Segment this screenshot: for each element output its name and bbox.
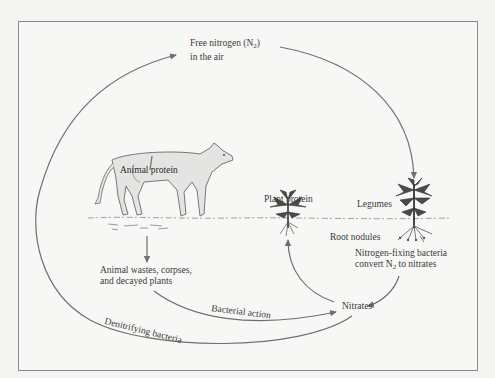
ground-debris xyxy=(108,224,168,230)
label-root-nodules: Root nodules xyxy=(330,232,380,243)
label-legumes: Legumes xyxy=(357,199,392,210)
legume-illustration xyxy=(396,178,432,242)
label-nitrogen-fixing: Nitrogen-fixing bacteria convert N2 to n… xyxy=(355,248,447,272)
arrow-nitrates-to-plant xyxy=(288,240,334,302)
label-free-nitrogen: Free nitrogen (N2) in the air xyxy=(190,38,260,62)
ground-line xyxy=(88,217,450,218)
label-plant-protein: Plant protein xyxy=(264,194,313,205)
arrow-nitrogen-to-legumes xyxy=(280,47,414,178)
label-nitrates: Nitrates xyxy=(342,301,372,312)
label-animal-protein: Animal protein xyxy=(120,165,178,176)
nitrogen-cycle-diagram: Free nitrogen (N2) in the air Animal pro… xyxy=(0,0,495,378)
arrow-legumes-to-nitrates xyxy=(368,276,399,306)
calf-illustration xyxy=(95,143,233,216)
label-animal-wastes: Animal wastes, corpses, and decayed plan… xyxy=(100,265,192,286)
